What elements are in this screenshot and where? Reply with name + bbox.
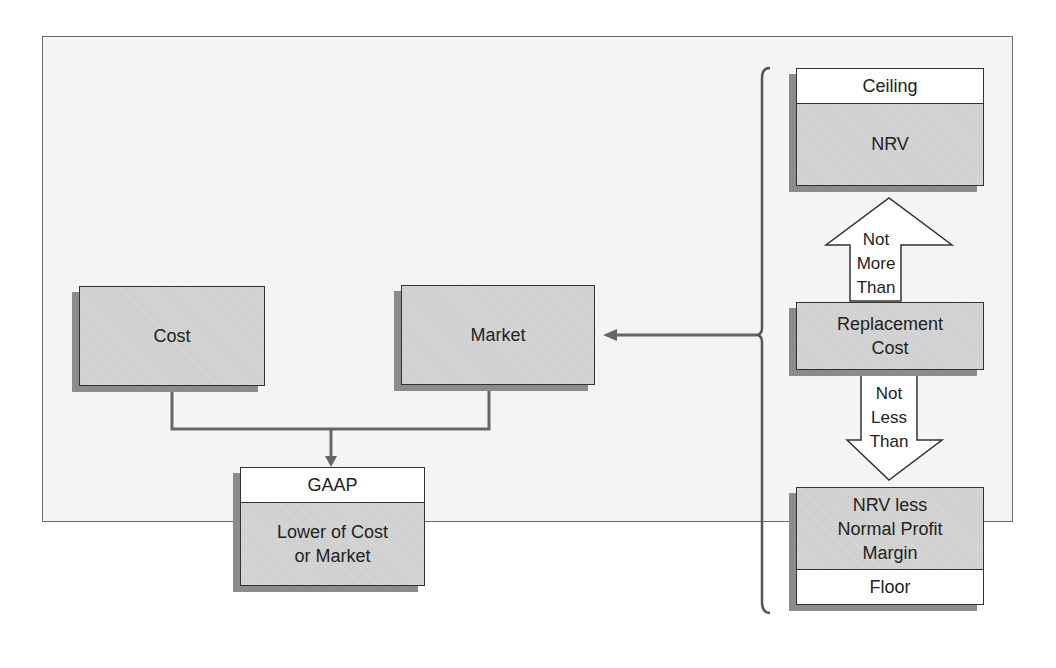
- down-line1: Not: [876, 382, 902, 406]
- ceiling-header: Ceiling: [797, 69, 983, 104]
- floor-line2: Normal Profit: [837, 517, 942, 541]
- down-line2: Less: [871, 406, 907, 430]
- up-line2: More: [857, 252, 896, 276]
- up-line1: Not: [863, 228, 889, 252]
- gaap-header: GAAP: [241, 468, 424, 503]
- not-less-than-label: Not Less Than: [862, 382, 916, 454]
- cost-box: Cost: [79, 286, 265, 386]
- down-line3: Than: [870, 430, 909, 454]
- replacement-cost-box: Replacement Cost: [796, 302, 984, 370]
- floor-line3: Margin: [862, 541, 917, 565]
- gaap-label-line2: or Market: [294, 544, 370, 568]
- market-box: Market: [401, 285, 595, 385]
- gaap-box: GAAP Lower of Cost or Market: [240, 467, 425, 586]
- cost-label: Cost: [153, 324, 190, 348]
- ceiling-box: Ceiling NRV: [796, 68, 984, 186]
- arrowhead-left-icon: [603, 329, 617, 341]
- merge-connector: [172, 384, 489, 429]
- nrv-label: NRV: [871, 132, 909, 156]
- floor-line1: NRV less: [853, 493, 928, 517]
- brace-icon: [756, 68, 770, 613]
- not-more-than-label: Not More Than: [850, 228, 902, 300]
- replacement-line1: Replacement: [837, 312, 943, 336]
- replacement-line2: Cost: [871, 336, 908, 360]
- arrowhead-down-icon: [325, 456, 337, 467]
- market-label: Market: [470, 323, 525, 347]
- floor-footer: Floor: [797, 569, 983, 604]
- gaap-label-line1: Lower of Cost: [277, 520, 388, 544]
- up-line3: Than: [857, 276, 896, 300]
- floor-box: NRV less Normal Profit Margin Floor: [796, 487, 984, 605]
